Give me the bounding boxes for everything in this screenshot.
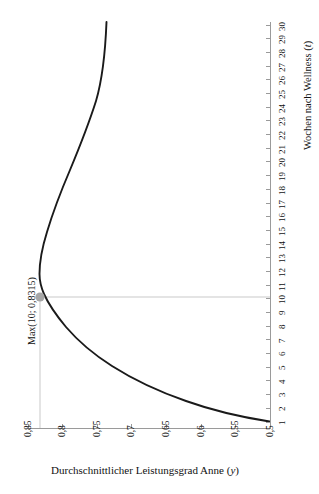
category-tick-label: 5 xyxy=(278,365,287,370)
category-tick-label: 18 xyxy=(278,186,287,195)
plot-area xyxy=(0,0,319,494)
category-tick-label: 24 xyxy=(278,104,287,113)
category-tick xyxy=(266,394,270,395)
category-tick-label: 22 xyxy=(278,131,287,140)
category-tick xyxy=(266,189,270,190)
value-axis-title: Durchschnittlicher Leistungsgrad Anne (y… xyxy=(0,464,290,476)
category-axis-title-symbol: (t) xyxy=(302,41,313,51)
category-tick xyxy=(266,285,270,286)
value-tick-label: 0,6 xyxy=(197,425,207,437)
category-axis-title-text: Wochen nach Wellness xyxy=(302,53,313,150)
category-tick xyxy=(266,216,270,217)
category-tick xyxy=(266,25,270,26)
category-tick xyxy=(266,271,270,272)
category-tick-label: 20 xyxy=(278,158,287,167)
category-tick xyxy=(266,422,270,423)
value-tick-label: 0,65 xyxy=(162,420,172,437)
category-tick xyxy=(266,93,270,94)
category-tick xyxy=(266,107,270,108)
value-axis-title-symbol: (y) xyxy=(227,464,239,476)
category-tick-label: 27 xyxy=(278,63,287,72)
category-tick xyxy=(266,134,270,135)
category-tick xyxy=(266,312,270,313)
category-tick-label: 10 xyxy=(278,295,287,304)
category-tick-label: 26 xyxy=(278,76,287,85)
category-tick-label: 21 xyxy=(278,145,287,154)
category-tick-label: 19 xyxy=(278,172,287,181)
category-tick xyxy=(266,79,270,80)
value-tick-label: 0,75 xyxy=(93,420,103,437)
category-tick xyxy=(266,353,270,354)
category-tick-label: 13 xyxy=(278,254,287,263)
value-tick-label: 0,5 xyxy=(266,425,276,437)
value-tick-label: 0,8 xyxy=(58,425,68,437)
category-tick-label: 28 xyxy=(278,49,287,58)
category-tick xyxy=(266,203,270,204)
category-tick-label: 8 xyxy=(278,324,287,329)
category-tick-label: 9 xyxy=(278,311,287,316)
category-tick-label: 15 xyxy=(278,227,287,236)
category-tick-label: 29 xyxy=(278,35,287,44)
category-tick-label: 16 xyxy=(278,213,287,222)
value-tick-label: 0,7 xyxy=(127,425,137,437)
value-tick-label: 0,85 xyxy=(24,420,34,437)
category-tick xyxy=(266,175,270,176)
category-tick xyxy=(266,120,270,121)
category-tick xyxy=(266,38,270,39)
category-tick-label: 14 xyxy=(278,241,287,250)
category-tick-label: 11 xyxy=(278,282,287,291)
category-tick-label: 25 xyxy=(278,90,287,99)
category-tick xyxy=(266,148,270,149)
category-tick xyxy=(266,230,270,231)
category-axis-line xyxy=(270,22,271,429)
value-tick-label: 0,55 xyxy=(231,420,241,437)
category-tick xyxy=(266,66,270,67)
category-tick xyxy=(266,257,270,258)
category-tick-label: 1 xyxy=(278,420,287,425)
category-tick xyxy=(266,367,270,368)
category-tick-label: 7 xyxy=(278,338,287,343)
category-tick-label: 30 xyxy=(278,22,287,31)
category-axis-title: Wochen nach Wellness (t) xyxy=(302,41,313,150)
data-curve xyxy=(40,22,270,422)
category-tick-label: 2 xyxy=(278,407,287,412)
category-tick-label: 6 xyxy=(278,352,287,357)
category-tick-label: 4 xyxy=(278,379,287,384)
category-tick-label: 12 xyxy=(278,268,287,277)
category-tick xyxy=(266,298,270,299)
category-tick xyxy=(266,380,270,381)
category-tick xyxy=(266,161,270,162)
category-tick xyxy=(266,244,270,245)
max-point-annotation: Max(10; 0,8315) xyxy=(26,277,37,345)
chart-figure: 0,85 0,8 0,75 0,7 0,65 0,6 0,55 0,5 1234… xyxy=(0,0,319,494)
category-tick xyxy=(266,339,270,340)
category-tick-label: 17 xyxy=(278,200,287,209)
category-tick-label: 3 xyxy=(278,393,287,398)
category-tick xyxy=(266,326,270,327)
category-tick xyxy=(266,408,270,409)
category-tick xyxy=(266,52,270,53)
category-tick-label: 23 xyxy=(278,117,287,126)
value-axis-title-text: Durchschnittlicher Leistungsgrad Anne xyxy=(51,464,224,476)
